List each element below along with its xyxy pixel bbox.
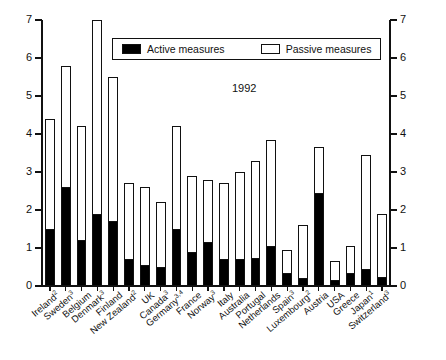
bar-segment-active	[45, 229, 55, 286]
bar-group	[156, 202, 166, 286]
y-tick-right	[390, 133, 397, 134]
y-tick-label-left: 3	[26, 166, 32, 177]
y-tick-label-left: 6	[26, 52, 32, 63]
bar-segment-active	[77, 240, 87, 286]
bar-segment-active	[330, 280, 340, 286]
bar-segment-passive	[298, 225, 308, 286]
bar-segment-passive	[361, 155, 371, 286]
bar-group	[140, 187, 150, 286]
bar-segment-active	[61, 187, 71, 286]
bar-segment-active	[92, 214, 102, 286]
y-tick-label-right: 4	[400, 128, 406, 139]
y-tick-label-left: 0	[26, 280, 32, 291]
bar-segment-active	[251, 258, 261, 287]
bar-group	[235, 172, 245, 286]
y-tick-left	[35, 19, 42, 20]
bar-group	[92, 20, 102, 286]
bar-segment-active	[361, 269, 371, 286]
bar-group	[346, 246, 356, 286]
bar-group	[282, 250, 292, 286]
y-tick-label-right: 1	[400, 242, 406, 253]
bar-segment-active	[298, 278, 308, 286]
y-tick-label-right: 5	[400, 90, 406, 101]
y-tick-right	[390, 95, 397, 96]
plot-area: 01234567 01234567	[42, 20, 390, 286]
bar-group	[361, 155, 371, 286]
y-tick-right	[390, 247, 397, 248]
y-tick-left	[35, 209, 42, 210]
y-tick-left	[35, 57, 42, 58]
bar-group	[377, 214, 387, 286]
bar-segment-active	[219, 259, 229, 286]
bar-group	[187, 176, 197, 286]
y-tick-left	[35, 171, 42, 172]
bar-group	[203, 180, 213, 286]
bar-group	[124, 183, 134, 286]
y-tick-label-right: 7	[400, 14, 406, 25]
y-tick-right	[390, 171, 397, 172]
y-tick-label-right: 6	[400, 52, 406, 63]
bar-group	[45, 119, 55, 286]
y-tick-right	[390, 209, 397, 210]
bar-segment-active	[156, 267, 166, 286]
bar-segment-active	[108, 221, 118, 286]
bar-group	[251, 161, 261, 286]
y-tick-right	[390, 19, 397, 20]
y-tick-label-left: 7	[26, 14, 32, 25]
bar-group	[330, 261, 340, 286]
bar-segment-active	[124, 259, 134, 286]
chart-figure: Active measures Passive measures 1992 01…	[0, 0, 446, 360]
bar-group	[108, 77, 118, 286]
bar-segment-active	[266, 246, 276, 286]
bar-series-container	[42, 20, 390, 286]
y-tick-left	[35, 247, 42, 248]
bar-group	[61, 66, 71, 286]
bar-group	[172, 126, 182, 286]
bar-segment-active	[377, 277, 387, 287]
y-tick-label-right: 2	[400, 204, 406, 215]
y-tick-left	[35, 95, 42, 96]
y-tick-label-left: 1	[26, 242, 32, 253]
y-tick-right	[390, 285, 397, 286]
bar-segment-active	[187, 252, 197, 286]
y-tick-label-left: 2	[26, 204, 32, 215]
y-tick-label-left: 4	[26, 128, 32, 139]
y-tick-left	[35, 285, 42, 286]
y-tick-label-right: 0	[400, 280, 406, 291]
y-tick-left	[35, 133, 42, 134]
y-tick-label-left: 5	[26, 90, 32, 101]
bar-group	[77, 126, 87, 286]
bar-segment-passive	[377, 214, 387, 286]
bar-group	[298, 225, 308, 286]
bar-segment-active	[235, 259, 245, 286]
bar-segment-active	[172, 229, 182, 286]
bar-segment-active	[346, 273, 356, 286]
x-axis-labels: Ireland2Sweden3BelgiumDenmark3FinlandNew…	[42, 290, 390, 360]
bar-segment-active	[203, 242, 213, 286]
bar-group	[314, 147, 324, 286]
y-tick-label-right: 3	[400, 166, 406, 177]
y-tick-right	[390, 57, 397, 58]
bar-group	[219, 183, 229, 286]
bar-segment-active	[140, 265, 150, 286]
bar-group	[266, 140, 276, 286]
bar-segment-active	[314, 193, 324, 286]
bar-segment-active	[282, 273, 292, 286]
